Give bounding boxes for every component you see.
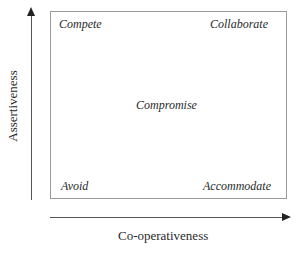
label-compromise: Compromise <box>136 98 197 113</box>
x-axis-label: Co-operativeness <box>118 228 208 244</box>
label-collaborate: Collaborate <box>210 17 268 32</box>
label-compete: Compete <box>59 17 102 32</box>
y-axis-arrow-line <box>31 14 32 200</box>
label-accommodate: Accommodate <box>203 179 271 194</box>
y-axis-label: Assertiveness <box>5 70 21 142</box>
x-axis-arrowhead-icon <box>282 213 291 221</box>
y-axis-arrowhead-icon <box>27 7 35 16</box>
x-axis-arrow-line <box>50 217 283 218</box>
label-avoid: Avoid <box>61 179 88 194</box>
